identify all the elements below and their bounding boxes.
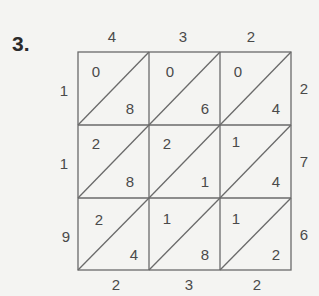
top-digit: 4 [102, 28, 122, 46]
left-digit: 1 [54, 155, 74, 173]
cell-tens: 0 [160, 63, 180, 81]
cell-ones: 4 [266, 100, 286, 118]
cell-tens: 1 [226, 133, 246, 151]
cell-ones: 4 [124, 246, 144, 264]
cell-ones: 2 [266, 246, 286, 264]
cell-ones: 6 [195, 100, 215, 118]
left-digit: 1 [54, 82, 74, 100]
right-digit: 6 [294, 226, 314, 244]
bottom-digit: 2 [106, 276, 126, 294]
cell-ones: 8 [195, 246, 215, 264]
cell-ones: 1 [195, 173, 215, 191]
cell-ones: 8 [120, 173, 140, 191]
cell-tens: 0 [228, 63, 248, 81]
bottom-digit: 2 [247, 276, 267, 294]
cell-tens: 2 [89, 211, 109, 229]
bottom-digit: 3 [179, 276, 199, 294]
cell-tens: 1 [157, 210, 177, 228]
right-digit: 7 [294, 153, 314, 171]
left-digit: 9 [56, 228, 76, 246]
right-digit: 2 [294, 80, 314, 98]
cell-tens: 0 [86, 63, 106, 81]
cell-ones: 8 [120, 100, 140, 118]
cell-tens: 1 [226, 210, 246, 228]
cell-tens: 2 [86, 135, 106, 153]
cell-tens: 2 [157, 135, 177, 153]
cell-ones: 4 [266, 173, 286, 191]
top-digit: 3 [173, 28, 193, 46]
top-digit: 2 [241, 28, 261, 46]
